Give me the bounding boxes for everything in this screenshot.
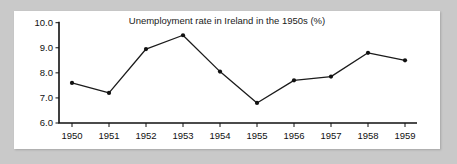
data-point xyxy=(144,47,148,51)
data-point xyxy=(255,101,259,105)
data-point xyxy=(107,91,111,95)
y-axis-tick-label: 6.0 xyxy=(40,117,53,128)
series-line-unemployment-rate xyxy=(72,35,405,103)
x-axis-tick-label: 1954 xyxy=(209,130,230,141)
series-points-unemployment-rate xyxy=(70,33,407,105)
data-point xyxy=(329,75,333,79)
x-axis-tick-label: 1959 xyxy=(394,130,415,141)
y-axis-tick-label: 7.0 xyxy=(40,92,53,103)
y-axis-tick-label: 10.0 xyxy=(35,17,54,28)
data-point xyxy=(403,58,407,62)
chart-axes xyxy=(59,22,417,123)
data-point xyxy=(292,78,296,82)
y-axis-tick-labels: 6.07.08.09.010.0 xyxy=(35,17,54,128)
x-axis-tick-label: 1957 xyxy=(320,130,341,141)
x-axis-tick-label: 1953 xyxy=(172,130,193,141)
data-point xyxy=(366,51,370,55)
x-axis-tick-label: 1955 xyxy=(246,130,267,141)
data-point xyxy=(218,70,222,74)
x-axis-tick-labels: 1950195119521953195419551956195719581959 xyxy=(61,130,415,141)
y-axis-tick-label: 9.0 xyxy=(40,42,53,53)
x-axis-tick-label: 1958 xyxy=(357,130,378,141)
line-chart: Unemployment rate in Ireland in the 1950… xyxy=(14,11,440,149)
y-axis-tick-label: 8.0 xyxy=(40,67,53,78)
x-axis-tick-label: 1956 xyxy=(283,130,304,141)
data-point xyxy=(70,81,74,85)
chart-title: Unemployment rate in Ireland in the 1950… xyxy=(129,15,325,26)
x-axis-tick-label: 1951 xyxy=(98,130,119,141)
x-axis-tick-label: 1950 xyxy=(61,130,82,141)
x-axis-tick-label: 1952 xyxy=(135,130,156,141)
chart-page: Unemployment rate in Ireland in the 1950… xyxy=(0,0,457,164)
chart-panel: Unemployment rate in Ireland in the 1950… xyxy=(14,11,440,149)
data-point xyxy=(181,33,185,37)
